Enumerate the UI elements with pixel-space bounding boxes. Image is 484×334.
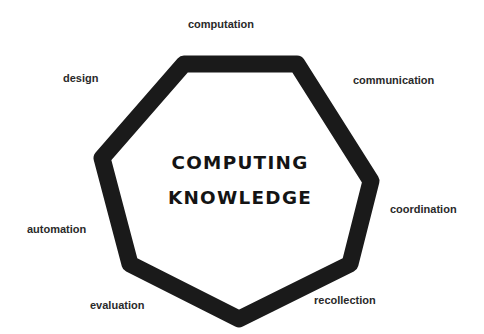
label-coordination: coordination <box>390 203 457 215</box>
label-communication: communication <box>353 74 434 86</box>
label-computation: computation <box>188 18 254 30</box>
title-line-1: COMPUTING <box>143 146 337 181</box>
label-design: design <box>63 72 98 84</box>
label-evaluation: evaluation <box>90 299 144 311</box>
diagram-canvas: COMPUTING KNOWLEDGE computation communic… <box>0 0 484 334</box>
center-title: COMPUTING KNOWLEDGE <box>143 146 337 216</box>
label-recollection: recollection <box>314 294 376 306</box>
title-line-2: KNOWLEDGE <box>143 181 337 216</box>
label-automation: automation <box>27 223 86 235</box>
